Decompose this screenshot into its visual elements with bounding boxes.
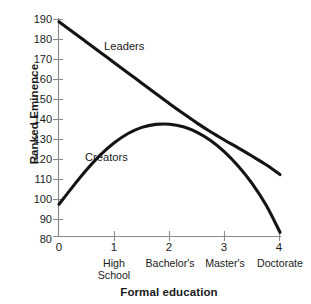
series-label-creators: Creators: [85, 151, 128, 163]
series-label-leaders: Leaders: [104, 40, 144, 52]
plot-area: [0, 0, 311, 304]
chart-figure: Ranked Eminence Formal education 190 180…: [0, 0, 311, 304]
series-line-creators: [59, 124, 280, 232]
